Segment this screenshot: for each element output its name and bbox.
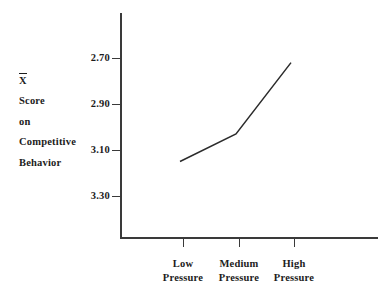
chart-figure: 2.70 2.90 3.10 3.30 Low Pressure Medium …	[0, 0, 386, 294]
data-series-line	[180, 63, 291, 162]
plot-area	[0, 0, 386, 294]
